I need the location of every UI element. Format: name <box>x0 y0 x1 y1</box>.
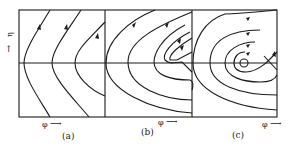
panel-c-x-axis-label: φ <box>262 120 268 129</box>
panel-b-trajectories <box>106 10 193 113</box>
panel-c-caption: (c) <box>232 130 244 140</box>
panel-a-x-axis-label: φ <box>42 120 48 129</box>
y-axis-label: η <box>5 32 14 37</box>
panel-c-x-arrow-icon: ⟶ <box>270 119 281 128</box>
panel-a-caption: (a) <box>62 131 74 141</box>
panel-c-trajectories <box>193 10 277 110</box>
panel-b-x-axis-label: φ <box>158 118 164 127</box>
panel-a-x-arrow-icon: ⟶ <box>50 119 61 128</box>
panel-b-x-arrow-icon: ⟶ <box>166 117 177 126</box>
y-axis-arrow-icon: ↑ <box>5 44 13 54</box>
panel-b-caption: (b) <box>141 127 154 137</box>
